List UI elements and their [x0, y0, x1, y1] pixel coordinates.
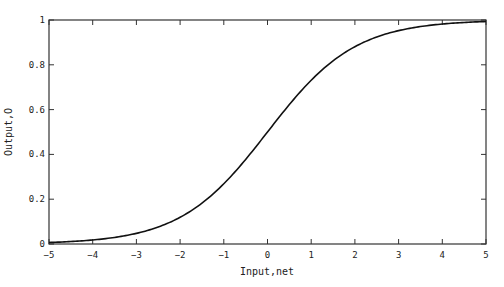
y-tick-label: 0.2 — [29, 194, 45, 204]
x-axis-label: Input,net — [240, 266, 294, 277]
x-tick-label: −1 — [218, 250, 229, 260]
y-tick-label: 0.6 — [29, 105, 45, 115]
x-tick-label: −3 — [131, 250, 142, 260]
x-tick-label: −4 — [87, 250, 98, 260]
x-tick-label: −5 — [44, 250, 55, 260]
y-axis-ticks: 00.20.40.60.81 — [29, 15, 486, 249]
y-axis-label: Output,O — [3, 108, 14, 156]
y-tick-label: 0 — [40, 239, 45, 249]
x-tick-label: 5 — [483, 250, 488, 260]
y-tick-label: 1 — [40, 15, 45, 25]
x-tick-label: 0 — [265, 250, 270, 260]
y-tick-label: 0.4 — [29, 149, 45, 159]
x-tick-label: 4 — [440, 250, 445, 260]
x-tick-label: −2 — [175, 250, 186, 260]
sigmoid-chart: −5−4−3−2−1012345 00.20.40.60.81 Input,ne… — [0, 0, 504, 287]
x-axis-ticks: −5−4−3−2−1012345 — [44, 20, 489, 260]
sigmoid-curve — [49, 22, 486, 243]
x-tick-label: 1 — [308, 250, 313, 260]
x-tick-label: 3 — [396, 250, 401, 260]
y-tick-label: 0.8 — [29, 60, 45, 70]
x-tick-label: 2 — [352, 250, 357, 260]
